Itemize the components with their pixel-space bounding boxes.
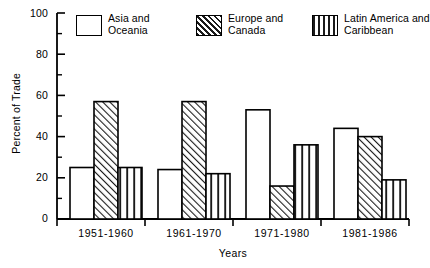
legend-label-asia-line1: Asia and [108,12,150,24]
x-tick-label-1: 1951-1960 [60,228,152,239]
bar-latam-4 [382,180,406,219]
bar-asia-3 [246,110,270,219]
bar-europe-4 [358,137,382,219]
legend-label-asia-line2: Oceania [108,24,148,36]
legend-label-asia: Asia and Oceania [108,13,150,36]
x-tick-label-3: 1971-1980 [236,228,328,239]
legend-label-europe-line1: Europe and [228,12,283,24]
bar-latam-2 [206,174,230,219]
bar-asia-1 [70,168,94,220]
bar-latam-3 [294,145,318,219]
bar-latam-1 [118,168,142,220]
bar-europe-3 [270,186,294,219]
x-tick-label-4: 1981-1986 [324,228,416,239]
x-ticks [57,219,409,226]
bar-europe-1 [94,102,118,219]
x-axis-title: Years [57,248,409,259]
bar-group-1971-1980 [246,110,318,219]
bar-asia-2 [158,170,182,219]
x-tick-label-2: 1961-1970 [148,228,240,239]
legend-label-latam: Latin America and Caribbean [344,13,430,36]
bar-asia-4 [334,128,358,219]
legend-label-europe-line2: Canada [228,24,265,36]
legend-swatch-diagonal-hatch-icon [196,15,222,36]
legend: Asia and Oceania Europe and Canada Latin… [76,14,406,48]
legend-swatch-solid-white-icon [76,15,102,36]
legend-label-europe: Europe and Canada [228,13,283,36]
bar-europe-2 [182,102,206,219]
bar-group-1951-1960 [70,102,142,219]
legend-swatch-vertical-stripes-icon [312,15,338,36]
legend-label-latam-line1: Latin America and [344,12,430,24]
bar-group-1961-1970 [158,102,230,219]
bar-group-1981-1986 [334,128,406,219]
legend-label-latam-line2: Caribbean [344,24,393,36]
